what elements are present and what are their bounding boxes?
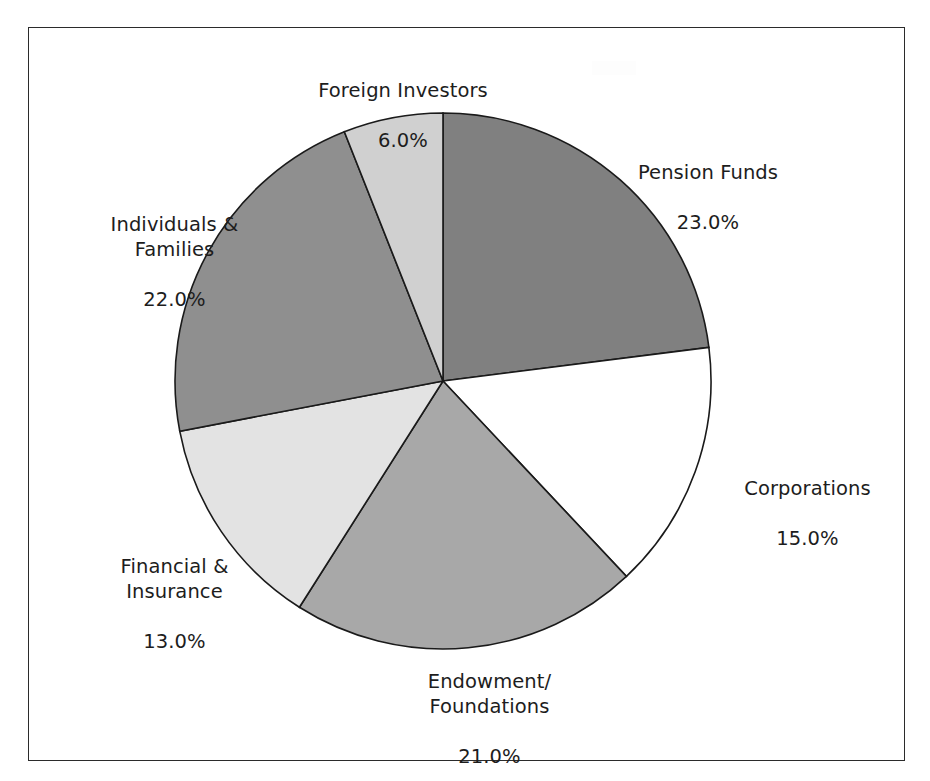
pie-label-financial-insurance: Financial & Insurance 13.0% xyxy=(62,530,287,680)
pie-label-endowment-foundations: Endowment/ Foundations 21.0% xyxy=(372,645,607,781)
pie-label-individuals-families: Individuals & Families 22.0% xyxy=(62,188,287,338)
pie-label-name: Foreign Investors xyxy=(278,79,528,104)
pie-label-value: 6.0% xyxy=(278,129,528,154)
pie-label-value: 22.0% xyxy=(62,288,287,313)
pie-label-value: 13.0% xyxy=(62,630,287,655)
pie-label-pension-funds: Pension Funds 23.0% xyxy=(588,136,828,261)
pie-chart-figure: Foreign Investors 6.0% Pension Funds 23.… xyxy=(0,0,930,781)
pie-label-name: Individuals & Families xyxy=(62,213,287,263)
pie-label-foreign-investors: Foreign Investors 6.0% xyxy=(278,54,528,179)
pie-label-name: Pension Funds xyxy=(588,161,828,186)
scan-artifact xyxy=(592,61,636,75)
pie-label-value: 21.0% xyxy=(372,745,607,770)
pie-label-name: Financial & Insurance xyxy=(62,555,287,605)
pie-label-corporations: Corporations 15.0% xyxy=(700,452,915,577)
pie-label-value: 23.0% xyxy=(588,211,828,236)
pie-label-name: Endowment/ Foundations xyxy=(372,670,607,720)
pie-label-value: 15.0% xyxy=(700,527,915,552)
pie-label-name: Corporations xyxy=(700,477,915,502)
